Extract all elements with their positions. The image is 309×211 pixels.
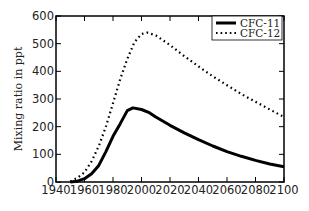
x-tick-label: 2000 — [127, 183, 156, 197]
y-tick-label: 400 — [32, 64, 54, 78]
y-tick-label: 200 — [32, 120, 54, 134]
y-tick-label: 600 — [32, 9, 54, 23]
legend: CFC-11CFC-12 — [212, 16, 282, 40]
y-axis-label: Mixing ratio in ppt — [12, 46, 25, 151]
line-chart: 1940196019802000202020402060208021000100… — [0, 0, 309, 211]
y-tick-label: 300 — [32, 92, 54, 106]
x-tick-label: 2060 — [212, 183, 241, 197]
x-tick-label: 1980 — [98, 183, 127, 197]
plot-frame — [56, 16, 284, 182]
legend-label-cfc-12: CFC-12 — [240, 27, 280, 39]
y-tick-label: 0 — [47, 175, 54, 189]
x-tick-label: 2100 — [269, 183, 298, 197]
x-tick-label: 2020 — [155, 183, 184, 197]
x-tick-label: 2080 — [241, 183, 270, 197]
series-cfc-11 — [70, 108, 284, 182]
y-tick-label: 100 — [32, 147, 54, 161]
x-tick-label: 2040 — [184, 183, 213, 197]
y-tick-label: 500 — [32, 37, 54, 51]
x-tick-label: 1960 — [70, 183, 99, 197]
